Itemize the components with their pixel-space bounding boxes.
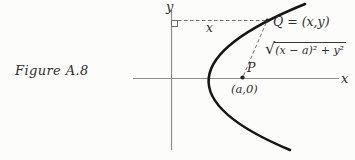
distance-formula: √ (x − a)² + y² [265, 42, 346, 57]
point-q-dot [265, 18, 269, 22]
point-p-label: P [247, 62, 255, 75]
radicand-expression: (x − a)² + y² [274, 42, 346, 57]
figure-a8: Figure A.8 y x x Q = (x,y) √ (x − a)² + … [0, 0, 355, 160]
point-p-dot [240, 75, 244, 79]
x-distance-label: x [206, 22, 213, 34]
point-q-label: Q = (x,y) [273, 16, 330, 29]
x-axis-label: x [341, 72, 348, 85]
y-axis-label: y [166, 0, 173, 13]
right-angle-marker [172, 21, 178, 27]
point-p-coordinates: (a,0) [231, 84, 258, 96]
figure-caption: Figure A.8 [15, 64, 89, 77]
